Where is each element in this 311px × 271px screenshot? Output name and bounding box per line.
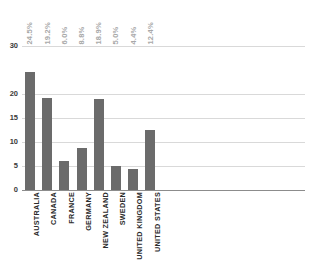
x-axis-tick-label: NEW ZEALAND [102,192,109,248]
bar-chart: 24.5% 19.2% 6.0% 8.8% 18.9% 5.0% 4.4% 12… [0,0,311,271]
data-label: 12.4% [146,22,154,44]
data-label: 6.0% [60,26,68,44]
x-axis-tick-label: SWEDEN [119,192,126,225]
bar [59,161,69,190]
data-label: 8.8% [78,26,86,44]
data-label: 18.9% [95,22,103,44]
data-label: 5.0% [112,26,120,44]
y-axis-tick: 20 [0,90,18,98]
bar-series [22,46,305,190]
x-axis-label-group: AUSTRALIA CANADA FRANCE GERMANY NEW ZEAL… [0,192,311,271]
bar [77,148,87,190]
y-axis-tick: 30 [0,42,18,50]
data-label: 19.2% [43,22,51,44]
bar [42,98,52,190]
data-label-group: 24.5% 19.2% 6.0% 8.8% 18.9% 5.0% 4.4% 12… [0,0,311,46]
x-axis-tick-label: FRANCE [68,192,75,224]
x-axis-tick-label: UNITED KINGDOM [136,192,143,260]
data-label: 24.5% [26,22,34,44]
bar [94,99,104,190]
y-axis-tick: 5 [0,162,18,170]
bar [145,130,155,190]
x-axis-tick-label: UNITED STATES [154,192,161,252]
y-axis-tick: 15 [0,114,18,122]
bar [128,169,138,190]
y-axis-tick: 10 [0,138,18,146]
x-axis-tick-label: CANADA [50,192,57,225]
bar [111,166,121,190]
bar [25,72,35,190]
x-axis-tick-label: AUSTRALIA [33,192,40,236]
data-label: 4.4% [129,26,137,44]
x-axis-tick-label: GERMANY [85,192,92,231]
